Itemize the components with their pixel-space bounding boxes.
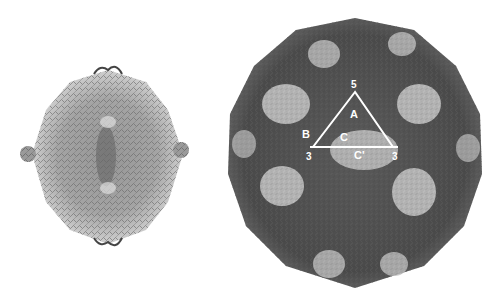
subunit-a-label: A — [350, 108, 358, 120]
subunit-c-label: C — [340, 131, 348, 143]
threefold-axis-right-label: 3 — [392, 151, 398, 162]
small-capsid-image — [18, 62, 198, 250]
fivefold-axis-label: 5 — [351, 79, 357, 90]
subunit-c-prime-label: C' — [354, 149, 365, 161]
subunit-b-label: B — [302, 128, 310, 140]
small-capsid-graphic — [18, 62, 198, 250]
large-capsid-graphic: 5 3 3 A B C C' — [224, 14, 486, 292]
large-capsid-image: 5 3 3 A B C C' — [224, 14, 486, 292]
threefold-axis-left-label: 3 — [306, 151, 312, 162]
